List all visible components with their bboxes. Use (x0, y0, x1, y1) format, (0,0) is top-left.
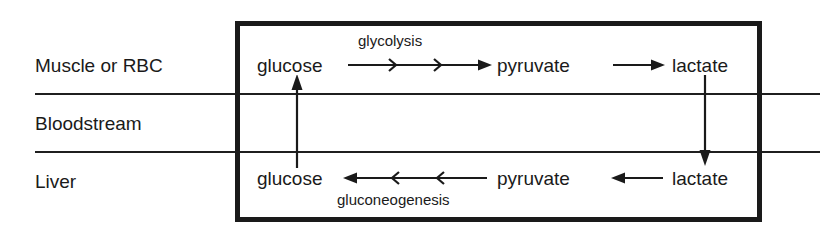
node-pyruvate-liver: pyruvate (495, 169, 572, 188)
node-pyruvate-muscle: pyruvate (495, 56, 572, 75)
pathway-label-glycolysis: glycolysis (358, 33, 422, 48)
compartment-label-muscle: Muscle or RBC (35, 56, 163, 75)
node-glucose-muscle: glucose (255, 56, 325, 75)
compartment-label-liver: Liver (35, 172, 76, 191)
node-glucose-liver: glucose (255, 169, 325, 188)
cori-cycle-diagram: Muscle or RBC Bloodstream Liver (0, 0, 834, 240)
node-lactate-liver: lactate (670, 169, 730, 188)
compartment-label-bloodstream: Bloodstream (35, 114, 142, 133)
node-lactate-muscle: lactate (670, 56, 730, 75)
cell-boundary-box (235, 21, 762, 222)
pathway-label-gluconeogenesis: gluconeogenesis (337, 192, 450, 207)
